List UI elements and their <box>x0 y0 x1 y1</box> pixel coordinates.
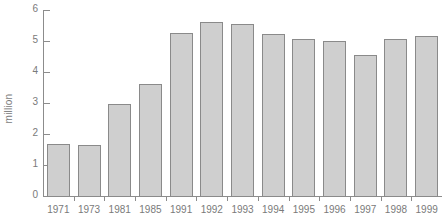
x-tick-mark <box>74 197 75 201</box>
y-tick-label: 1 <box>32 158 38 169</box>
bar <box>47 144 70 197</box>
bar <box>200 22 223 197</box>
bar <box>415 36 438 197</box>
bar <box>78 145 101 197</box>
y-tick-label: 5 <box>32 34 38 45</box>
y-axis-label: million <box>0 0 16 217</box>
x-tick-label: 1971 <box>47 204 69 215</box>
x-tick-label: 1999 <box>416 204 438 215</box>
y-tick-3: 3 <box>43 103 50 104</box>
x-tick-label: 1981 <box>109 204 131 215</box>
x-tick-label: 1985 <box>139 204 161 215</box>
x-tick-mark <box>350 197 351 201</box>
x-tick-label: 1991 <box>170 204 192 215</box>
bar <box>108 104 131 197</box>
x-tick-mark <box>289 197 290 201</box>
x-tick-mark <box>258 197 259 201</box>
bar <box>139 84 162 197</box>
bar-chart: million 0123456 197119731981198519911992… <box>0 0 447 217</box>
y-tick-mark <box>44 72 50 73</box>
x-tick-mark <box>411 197 412 201</box>
y-tick-mark <box>44 10 50 11</box>
y-tick-label: 4 <box>32 65 38 76</box>
x-tick-label: 1997 <box>354 204 376 215</box>
x-tick-mark <box>135 197 136 201</box>
bar <box>354 55 377 197</box>
x-tick-label: 1996 <box>323 204 345 215</box>
bar <box>262 34 285 197</box>
y-tick-label: 6 <box>32 3 38 14</box>
x-tick-mark <box>319 197 320 201</box>
y-tick-mark <box>44 103 50 104</box>
y-tick-label: 2 <box>32 127 38 138</box>
plot-area: 0123456 19711973198119851991199219931994… <box>43 8 442 198</box>
y-tick-label: 3 <box>32 96 38 107</box>
y-tick-2: 2 <box>43 134 50 135</box>
bar <box>231 24 254 197</box>
bar <box>323 41 346 197</box>
x-tick-label: 1998 <box>385 204 407 215</box>
y-tick-mark <box>44 41 50 42</box>
x-tick-mark <box>166 197 167 201</box>
bar <box>384 39 407 197</box>
x-tick-label: 1994 <box>262 204 284 215</box>
x-tick-label: 1992 <box>201 204 223 215</box>
bar <box>170 33 193 197</box>
y-tick-6: 6 <box>43 10 50 11</box>
x-tick-mark <box>227 197 228 201</box>
y-tick-label: 0 <box>32 189 38 200</box>
bar <box>292 39 315 197</box>
y-tick-5: 5 <box>43 41 50 42</box>
x-tick-label: 1993 <box>231 204 253 215</box>
x-tick-mark <box>381 197 382 201</box>
x-tick-label: 1973 <box>78 204 100 215</box>
x-tick-mark <box>104 197 105 201</box>
x-tick-mark <box>196 197 197 201</box>
y-tick-4: 4 <box>43 72 50 73</box>
y-tick-mark <box>44 134 50 135</box>
x-tick-label: 1995 <box>293 204 315 215</box>
